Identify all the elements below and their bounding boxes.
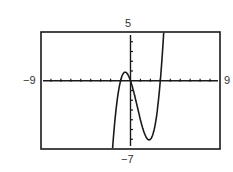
function-curve bbox=[113, 33, 164, 148]
axes bbox=[43, 35, 218, 146]
graph-window bbox=[0, 0, 233, 172]
